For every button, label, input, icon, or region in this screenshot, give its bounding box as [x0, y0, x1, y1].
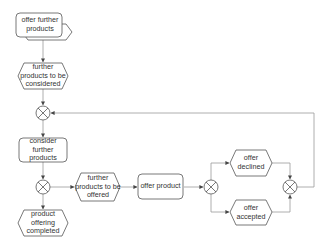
xor-gateway-4[interactable] — [283, 180, 297, 194]
label-offer-further-products: offer further products — [16, 13, 64, 37]
label-product-offering-completed: product offering completed — [22, 210, 64, 236]
xor-gateway-1[interactable] — [36, 106, 50, 120]
label-further-products-to-be-considered: further products to be considered — [18, 63, 68, 89]
label-offer-accepted: offer accepted — [230, 200, 272, 225]
xor-gateway-3[interactable] — [204, 180, 218, 194]
connector — [211, 163, 229, 180]
xor-gateway-2[interactable] — [36, 180, 50, 194]
connector — [211, 194, 229, 212]
label-offer-declined: offer declined — [230, 150, 272, 176]
label-further-products-to-be-offered: further products to be offered — [75, 173, 121, 201]
label-consider-further-products: consider further products — [19, 138, 67, 162]
label-offer-product: offer product — [138, 174, 183, 199]
connector — [272, 195, 290, 212]
connector — [272, 163, 290, 179]
